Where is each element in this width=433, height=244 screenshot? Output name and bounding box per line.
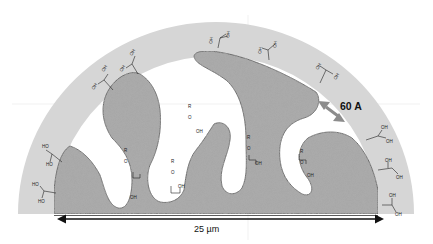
o-label: O [300,160,304,165]
oh-label: OH [385,158,392,163]
ho-label: HO [32,182,39,187]
scale-arrow-right-icon [375,215,384,224]
oh-label: OH [178,184,185,189]
oh-label: OH [386,139,393,144]
r-label: R [188,104,192,109]
oh-label: OH [196,129,203,134]
oh-label: OH [395,212,402,217]
o-label: O [247,146,251,151]
ho-label: HO [42,144,49,149]
scale-bar [54,215,384,224]
oh-label: OH [389,193,396,198]
o-label: O [171,170,175,175]
oh-label: OH [381,125,388,130]
particle-width-label: 25 µm [194,224,219,234]
ho-label: HO [38,199,45,204]
oh-label: OH [255,161,262,166]
oh-label: OH [396,175,403,180]
oh-label: OH [130,195,137,200]
pore-size-label: 60 A [340,100,362,112]
o-label: O [188,115,192,120]
porous-particle-diagram: OH OH OH OH OH OH OH OH OH OH OH OH OH O… [0,0,433,244]
r-label: R [171,159,175,164]
oh-label: OH [307,173,314,178]
o-label: O [124,159,128,164]
ho-label: HO [46,162,53,167]
